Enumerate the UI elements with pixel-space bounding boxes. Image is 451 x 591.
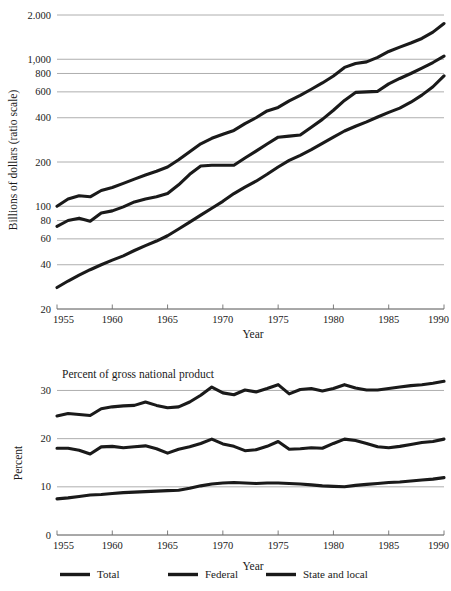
- top-panel-ytick-label: 20: [41, 304, 52, 315]
- bottom-panel-xtick-label: 1990: [428, 540, 449, 551]
- legend-label-total: Total: [97, 568, 119, 580]
- bottom-panel-xtick-label: 1980: [323, 540, 344, 551]
- two-panel-line-chart-figure: 204060801002004006008001,0002.000 195519…: [0, 0, 451, 591]
- bottom-panel-xtick-label: 1975: [268, 540, 289, 551]
- top-panel-y-axis-title: Billions of dollars (ratio scale): [7, 90, 20, 231]
- bottom-panel-ytick-label: 10: [41, 481, 52, 492]
- bottom-panel-xtick-label: 1970: [212, 540, 233, 551]
- bottom-panel-ytick-label: 20: [41, 433, 52, 444]
- top-panel-ytick-label: 100: [35, 201, 51, 212]
- top-panel-ytick-label: 2.000: [27, 10, 51, 21]
- top-panel-xtick-label: 1955: [53, 314, 74, 325]
- chart-legend: TotalFederalState and local: [60, 568, 368, 580]
- legend-label-state-and-local: State and local: [303, 568, 368, 580]
- top-panel-ticklabels: 204060801002004006008001,0002.000: [27, 10, 51, 315]
- bottom-panel-xticklabels: 19551960196519701975198019851990: [53, 540, 449, 551]
- top-panel-ytick-label: 800: [35, 68, 51, 79]
- bottom-panel-xtick-label: 1960: [102, 540, 123, 551]
- bottom-panel-ticklabels: 0102030: [41, 385, 52, 541]
- top-panel-xtick-label: 1975: [268, 314, 289, 325]
- legend-label-federal: Federal: [205, 568, 238, 580]
- top-panel-x-axis-title: Year: [242, 328, 263, 340]
- top-panel-xtick-label: 1970: [212, 314, 233, 325]
- bottom-panel-series: [57, 381, 444, 499]
- bottom-panel-xtick-label: 1965: [157, 540, 178, 551]
- bottom-panel: Percent of gross national product 010203…: [12, 368, 449, 572]
- bottom-panel-xaxis: [57, 531, 444, 536]
- bottom-panel-gridlines: [57, 390, 444, 535]
- bottom-panel-title: Percent of gross national product: [62, 368, 215, 381]
- bottom-panel-ytick-label: 30: [41, 385, 52, 396]
- top-panel-ytick-label: 600: [35, 86, 51, 97]
- top-panel-ytick-label: 40: [41, 259, 52, 270]
- top-panel-series-state-and-local: [57, 76, 444, 288]
- top-panel-xtick-label: 1980: [323, 314, 344, 325]
- bottom-panel-series-total: [57, 381, 444, 416]
- bottom-panel-y-axis-title: Percent: [12, 445, 24, 480]
- top-panel-xtick-label: 1990: [428, 314, 449, 325]
- top-panel-ytick-label: 200: [35, 157, 51, 168]
- top-panel-ytick-label: 400: [35, 112, 51, 123]
- bottom-panel-xtick-label: 1955: [53, 540, 74, 551]
- top-panel-xtick-label: 1960: [102, 314, 123, 325]
- bottom-panel-series-state-and-local: [57, 478, 444, 499]
- top-panel-ytick-label: 80: [41, 215, 52, 226]
- top-panel-ytick-label: 60: [41, 233, 52, 244]
- top-panel-series: [57, 24, 444, 288]
- bottom-panel-series-federal: [57, 439, 444, 454]
- top-panel-xtick-label: 1985: [378, 314, 399, 325]
- top-panel-gridlines: [57, 15, 444, 309]
- top-panel-xticklabels: 19551960196519701975198019851990: [53, 314, 449, 325]
- bottom-panel-x-axis-title: Year: [242, 560, 263, 572]
- top-panel-series-federal: [57, 56, 444, 226]
- top-panel: 204060801002004006008001,0002.000 195519…: [7, 10, 449, 340]
- top-panel-ytick-label: 1,000: [27, 54, 51, 65]
- bottom-panel-xtick-label: 1985: [378, 540, 399, 551]
- bottom-panel-ytick-label: 0: [46, 530, 51, 541]
- top-panel-xaxis: [57, 305, 444, 310]
- top-panel-xtick-label: 1965: [157, 314, 178, 325]
